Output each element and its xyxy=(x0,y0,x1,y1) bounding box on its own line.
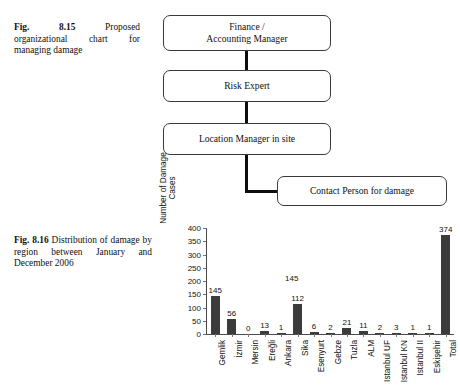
chart-bar-group: 13 xyxy=(256,228,272,334)
flow-node-finance-line1: Finance / xyxy=(206,21,287,33)
chart-y-axis-ticks: 050100150200250300350400 xyxy=(179,222,201,334)
chart-bar-value-label: 21 xyxy=(342,318,351,327)
chart-y-tick-mark xyxy=(203,281,206,282)
chart-bar-value-label: 2 xyxy=(328,323,332,332)
chart-y-axis-label: Number of Damage Cases xyxy=(160,140,176,236)
chart-bar-group: 3 xyxy=(388,228,404,334)
chart-bar-value-label: 1 xyxy=(411,323,415,332)
figure-page: Fig. 8.15 Proposed organizational chart … xyxy=(0,0,460,388)
flow-node-contact-person: Contact Person for damage xyxy=(277,176,447,206)
flow-node-location-manager: Location Manager in site xyxy=(163,123,331,155)
chart-y-tick-mark xyxy=(203,268,206,269)
chart-x-tick-label: Ereğli xyxy=(268,340,277,361)
chart-x-tick-label: Gebze xyxy=(334,340,343,364)
chart-bar-value-label: 374 xyxy=(439,225,452,234)
flow-node-finance-line2: Accounting Manager xyxy=(206,33,287,45)
figure-816-caption: Fig. 8.16 Distribution of damage by regi… xyxy=(14,235,152,270)
flow-node-risk-expert: Risk Expert xyxy=(163,70,331,102)
chart-x-tick-mark xyxy=(413,334,414,337)
chart-x-tick-label: İzmir xyxy=(235,340,244,358)
chart-bar-value-label: 0 xyxy=(246,324,250,333)
chart-x-tick-mark xyxy=(380,334,381,337)
chart-bar-group: 11 xyxy=(355,228,371,334)
chart-y-tick-label: 200 xyxy=(188,277,201,286)
chart-y-tick-mark xyxy=(203,321,206,322)
organizational-flowchart: Finance / Accounting Manager Risk Expert… xyxy=(150,6,460,216)
chart-x-tick-label: Istanbul KN xyxy=(400,340,409,382)
chart-x-tick-mark xyxy=(232,334,233,337)
chart-bar-value-label: 11 xyxy=(359,321,367,330)
chart-bar-value-label: 6 xyxy=(312,322,316,331)
chart-x-tick-mark xyxy=(331,334,332,337)
chart-y-tick-mark xyxy=(203,255,206,256)
chart-x-tick-mark xyxy=(248,334,249,337)
chart-y-axis-label-line2: Cases xyxy=(169,140,178,236)
chart-x-tick-mark xyxy=(314,334,315,337)
chart-bar-group: 374 xyxy=(438,228,454,334)
chart-x-tick-mark xyxy=(215,334,216,337)
chart-bar-group: 2 xyxy=(372,228,388,334)
chart-bar-value-label: 1 xyxy=(427,323,431,332)
chart-y-axis-label-line1: Number of Damage xyxy=(159,152,168,223)
chart-bar-group: 21 xyxy=(339,228,355,334)
chart-bar-value-label: 145 xyxy=(209,286,222,295)
chart-bar-value-label: 2 xyxy=(378,323,382,332)
chart-x-tick-label: Esenyurt xyxy=(317,340,326,372)
chart-x-tick-mark xyxy=(265,334,266,337)
chart-x-tick-label: Total xyxy=(449,340,458,357)
chart-bar-value-label: 112 xyxy=(291,294,304,303)
chart-x-tick-mark xyxy=(429,334,430,337)
chart-y-tick-label: 50 xyxy=(192,316,201,325)
chart-y-tick-mark xyxy=(203,308,206,309)
chart-bar-group: 112 xyxy=(289,228,305,334)
chart-bar-group: 1 xyxy=(273,228,289,334)
chart-bar-value-label: 1 xyxy=(279,323,283,332)
chart-bar-value-label: 13 xyxy=(260,321,269,330)
chart-plot-area: 145 1455601311126221112311374 xyxy=(207,228,454,334)
chart-x-tick-mark xyxy=(281,334,282,337)
chart-y-tick-mark xyxy=(203,228,206,229)
chart-bar xyxy=(293,304,302,334)
chart-x-tick-mark xyxy=(347,334,348,337)
chart-x-tick-label: Ankara xyxy=(284,340,293,366)
chart-bar-value-label: 3 xyxy=(394,323,398,332)
flow-node-contact-label: Contact Person for damage xyxy=(310,185,414,197)
chart-x-tick-label: Mersin xyxy=(251,340,260,365)
chart-y-tick-mark xyxy=(203,294,206,295)
figure-815-caption: Fig. 8.15 Proposed organizational chart … xyxy=(14,22,140,57)
chart-bar-group: 1 xyxy=(405,228,421,334)
chart-y-tick-label: 150 xyxy=(188,290,201,299)
damage-by-region-bar-chart: Number of Damage Cases 05010015020025030… xyxy=(160,222,460,388)
chart-x-tick-label: Istanbul UF xyxy=(383,340,392,382)
connector-location-vertical xyxy=(245,155,248,193)
chart-x-tick-label: Eskişehir xyxy=(433,340,442,373)
chart-bar-group: 2 xyxy=(322,228,338,334)
chart-y-tick-mark xyxy=(203,241,206,242)
figure-816-caption-label: Fig. 8.16 xyxy=(14,235,49,245)
chart-y-tick-label: 100 xyxy=(188,303,201,312)
chart-y-tick-label: 300 xyxy=(188,250,201,259)
chart-bar-group: 1 xyxy=(421,228,437,334)
flow-node-risk-label: Risk Expert xyxy=(224,80,270,92)
connector-risk-to-location xyxy=(245,102,248,123)
chart-x-tick-label: Istanbul II xyxy=(416,340,425,376)
chart-x-tick-label: Tuzla xyxy=(350,340,359,360)
chart-bar xyxy=(211,296,220,334)
flow-node-location-label: Location Manager in site xyxy=(199,133,295,145)
chart-y-tick-label: 350 xyxy=(188,237,201,246)
chart-bar-group: 6 xyxy=(306,228,322,334)
chart-x-tick-label: Gemlik xyxy=(218,340,227,365)
connector-location-to-contact xyxy=(245,190,280,193)
flow-node-finance-accounting-manager: Finance / Accounting Manager xyxy=(163,15,331,51)
chart-y-tick-label: 0 xyxy=(197,330,201,339)
connector-finance-to-risk xyxy=(245,51,248,70)
chart-x-tick-label: ALM xyxy=(367,340,376,357)
chart-bar-value-label: 56 xyxy=(227,309,236,318)
chart-x-tick-mark xyxy=(396,334,397,337)
chart-x-tick-mark xyxy=(446,334,447,337)
chart-bar xyxy=(441,235,450,334)
chart-y-tick-label: 250 xyxy=(188,263,201,272)
chart-bar xyxy=(227,319,236,334)
chart-bar-group: 0 xyxy=(240,228,256,334)
chart-x-tick-mark xyxy=(298,334,299,337)
